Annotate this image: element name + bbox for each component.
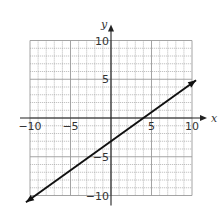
x-tick-label: −5 <box>62 120 78 133</box>
x-tick-label: −10 <box>18 120 41 133</box>
x-tick-label: 10 <box>185 120 199 133</box>
x-axis-label: x <box>211 112 218 125</box>
x-tick-label: 5 <box>148 120 155 133</box>
axes <box>20 25 207 206</box>
y-axis-label: y <box>100 18 108 31</box>
coordinate-plane: −10−5510105−5−10 x y <box>0 0 223 219</box>
y-axis-arrow-icon <box>108 25 114 32</box>
x-axis-arrow-icon <box>200 115 207 121</box>
y-tick-label: 5 <box>102 73 109 86</box>
y-tick-label: 10 <box>95 35 109 48</box>
y-tick-label: −10 <box>86 190 109 203</box>
